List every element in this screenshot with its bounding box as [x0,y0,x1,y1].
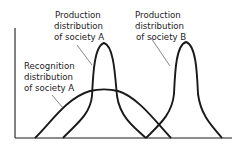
production-a-label-line-2: distribution [54,21,103,31]
recognition-a-label-line-3: of society A [24,83,74,93]
production-b-leader-line [151,38,170,66]
production-b-label: Production distribution of society B [135,10,186,42]
recognition-a-leader-line [52,95,63,108]
recognition-a-label: Recognition distribution of society A [24,61,75,93]
production-a-label-line-3: of society A [54,32,104,42]
production-a-leader-line [77,45,92,65]
production-b-label-line-3: of society B [136,32,186,42]
recognition-a-label-line-2: distribution [24,72,73,82]
production-a-label-line-1: Production [55,10,101,20]
production-b-label-line-1: Production [135,10,181,20]
recognition-a-label-line-1: Recognition [24,61,75,71]
production-b-label-line-2: distribution [135,21,184,31]
recognition-distribution-society-a-curve [35,90,171,139]
distribution-diagram: Production distribution of society A Pro… [0,0,243,149]
production-distribution-society-a-curve [63,43,146,138]
production-a-label: Production distribution of society A [54,10,104,42]
